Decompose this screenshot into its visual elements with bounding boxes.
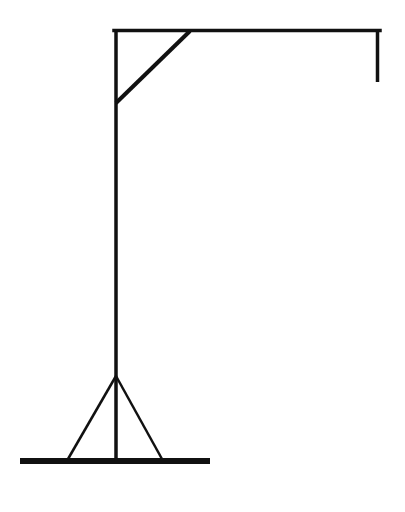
gallows-brace [116, 31, 190, 103]
gallows-drawing [0, 0, 405, 512]
gallows-leg-left [68, 376, 116, 459]
gallows-leg-right [116, 376, 162, 459]
